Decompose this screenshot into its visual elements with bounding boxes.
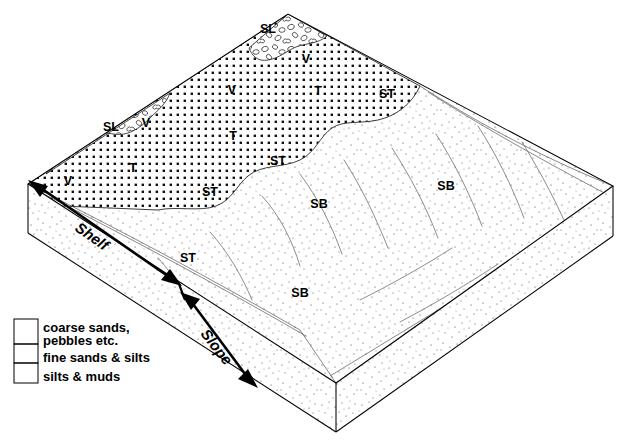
block-diagram-canvas: Shelf Slope SL V T ST SL V V T ST T V ST… [0,0,627,440]
legend-swatch-fine [14,344,38,363]
figure-root: Shelf Slope SL V T ST SL V V T ST T V ST… [0,0,627,440]
legend-swatch-coarse [14,319,38,344]
facies-label-sb-right: SB [437,179,454,193]
facies-label-st-slope: ST [180,251,196,265]
facies-label-sl-left: SL [103,120,119,134]
facies-label-st-upper: ST [379,87,395,101]
legend-swatch-silt [14,363,38,383]
legend: coarse sands, pebbles etc. fine sands & … [14,319,150,384]
facies-label-t-left: T [129,161,137,175]
facies-label-st-notch: ST [202,185,218,199]
facies-label-sb-upper: SB [310,197,327,211]
facies-label-st-mid: ST [270,154,286,168]
facies-label-v-top: V [302,52,311,66]
facies-label-sb-lower: SB [291,286,308,300]
facies-label-v-mid: V [228,83,237,97]
facies-label-v-lower: V [64,174,73,188]
facies-label-t-upper: T [314,84,322,98]
legend-label-silt: silts & muds [43,369,120,384]
facies-label-t-mid: T [229,129,237,143]
legend-label-coarse-line2: pebbles etc. [43,333,118,348]
facies-label-v-left2: V [142,116,151,130]
facies-label-sl-top: SL [260,22,276,36]
legend-label-fine: fine sands & silts [43,350,150,365]
